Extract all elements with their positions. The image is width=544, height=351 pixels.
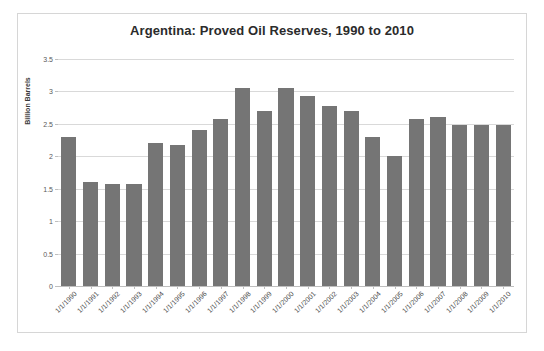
- bar-slot: [253, 59, 275, 286]
- bar-slot: [80, 59, 102, 286]
- bar: [126, 184, 141, 286]
- y-tick-label: 3.5: [43, 56, 53, 63]
- x-tick-mark: [112, 286, 113, 289]
- bar-slot: [210, 59, 232, 286]
- x-tick-mark: [351, 286, 352, 289]
- x-tick-mark: [503, 286, 504, 289]
- bar-slot: [449, 59, 471, 286]
- bar: [496, 125, 511, 286]
- bar-slot: [58, 59, 80, 286]
- plot-area: 00.511.522.533.5: [58, 59, 514, 286]
- bar: [300, 96, 315, 286]
- x-tick-mark: [156, 286, 157, 289]
- y-tick-label: 1.5: [43, 185, 53, 192]
- bar-slot: [167, 59, 189, 286]
- bar-slot: [471, 59, 493, 286]
- x-tick-mark: [438, 286, 439, 289]
- bar-slot: [232, 59, 254, 286]
- bar-slot: [297, 59, 319, 286]
- bar: [61, 137, 76, 286]
- bar: [365, 137, 380, 286]
- bar: [344, 111, 359, 286]
- x-axis-ticks: 1/1/19901/1/19911/1/19921/1/19931/1/1994…: [58, 286, 514, 341]
- bar-slot: [405, 59, 427, 286]
- bar-slot: [384, 59, 406, 286]
- bar: [430, 117, 445, 286]
- y-axis-title: Billion Barrels: [24, 56, 31, 146]
- y-tick-label: 2.5: [43, 120, 53, 127]
- x-tick-mark: [177, 286, 178, 289]
- bar-slot: [340, 59, 362, 286]
- y-tick-label: 2: [49, 153, 53, 160]
- bar: [192, 130, 207, 286]
- x-tick-mark: [286, 286, 287, 289]
- x-tick-mark: [199, 286, 200, 289]
- bar: [213, 119, 228, 286]
- bar: [105, 184, 120, 286]
- bar: [83, 182, 98, 286]
- x-tick-mark: [308, 286, 309, 289]
- bar-slot: [492, 59, 514, 286]
- bar: [387, 156, 402, 286]
- y-tick-label: 1: [49, 218, 53, 225]
- bar: [170, 145, 185, 286]
- x-tick-mark: [243, 286, 244, 289]
- x-tick-mark: [69, 286, 70, 289]
- bar: [322, 106, 337, 286]
- x-tick-mark: [134, 286, 135, 289]
- bar-slot: [319, 59, 341, 286]
- bar-slot: [101, 59, 123, 286]
- bar: [257, 111, 272, 286]
- x-tick-mark: [395, 286, 396, 289]
- y-tick-label: 0: [49, 283, 53, 290]
- x-tick-mark: [264, 286, 265, 289]
- bar: [409, 119, 424, 286]
- bar: [148, 143, 163, 286]
- bar-slot: [123, 59, 145, 286]
- x-tick-mark: [460, 286, 461, 289]
- x-tick-mark: [91, 286, 92, 289]
- bar: [278, 88, 293, 286]
- bar-slot: [362, 59, 384, 286]
- chart-container: Argentina: Proved Oil Reserves, 1990 to …: [17, 13, 527, 333]
- x-tick-mark: [416, 286, 417, 289]
- x-tick-mark: [329, 286, 330, 289]
- bar-slot: [188, 59, 210, 286]
- bar-slot: [145, 59, 167, 286]
- bar-slot: [275, 59, 297, 286]
- bar-slot: [427, 59, 449, 286]
- x-tick-mark: [481, 286, 482, 289]
- chart-title: Argentina: Proved Oil Reserves, 1990 to …: [18, 23, 526, 38]
- bar: [235, 88, 250, 286]
- bar-series: [58, 59, 514, 286]
- x-tick-mark: [373, 286, 374, 289]
- x-tick-mark: [221, 286, 222, 289]
- y-tick-label: 3: [49, 88, 53, 95]
- bar: [452, 125, 467, 286]
- bar: [474, 125, 489, 286]
- y-tick-label: 0.5: [43, 250, 53, 257]
